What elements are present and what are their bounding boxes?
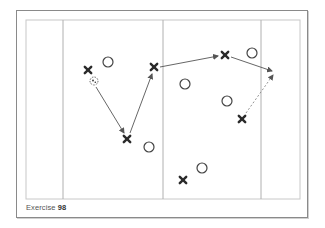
pass-arrow-1 xyxy=(96,87,124,133)
defender-circle-icon xyxy=(103,57,113,67)
defender-circle-icon xyxy=(247,48,257,58)
defender-circle-icon xyxy=(197,163,207,173)
attacker-x-icon xyxy=(239,116,245,122)
pass-arrow-3 xyxy=(160,56,218,67)
defender-circle-icon xyxy=(144,142,154,152)
attackers-group xyxy=(85,52,245,183)
attacker-x-icon xyxy=(151,64,157,70)
caption-label: Exercise xyxy=(26,203,56,212)
defender-circle-icon xyxy=(180,79,190,89)
movement-arrows xyxy=(96,56,273,133)
pass-arrow-4 xyxy=(231,57,272,71)
pitch-lines xyxy=(26,20,300,199)
attacker-x-icon xyxy=(124,136,130,142)
ball-icon xyxy=(90,77,98,85)
exercise-number: 98 xyxy=(58,203,67,212)
pitch-diagram xyxy=(0,0,325,228)
attacker-x-icon xyxy=(85,67,91,73)
attacker-x-icon xyxy=(222,52,228,58)
pass-arrow-2 xyxy=(130,74,152,133)
run-arrow-5 xyxy=(246,75,273,113)
attacker-x-icon xyxy=(180,177,186,183)
defender-circle-icon xyxy=(222,96,232,106)
defenders-group xyxy=(103,48,257,173)
exercise-caption: Exercise 98 xyxy=(26,203,66,212)
